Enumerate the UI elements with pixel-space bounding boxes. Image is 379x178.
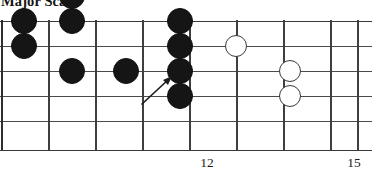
fret-line-nut [1,20,3,150]
fret-number-15: 15 [342,155,366,170]
note-marker-filled [59,8,85,34]
fretboard-grid [0,20,379,152]
note-marker-filled [167,33,193,59]
fret-line-3 [142,20,144,150]
note-marker-filled [11,33,37,59]
fret-number-12: 12 [195,155,219,170]
note-marker-open [225,35,247,57]
fret-line-7 [330,20,332,150]
note-marker-open [279,60,301,82]
fret-line-8 [357,20,359,150]
note-marker-open [279,85,301,107]
note-marker-filled [167,8,193,34]
note-marker-filled [167,83,193,109]
string-line-5 [0,121,372,123]
note-marker-filled [167,58,193,84]
note-marker-filled [113,58,139,84]
string-line-6 [0,150,372,152]
note-marker-filled [11,8,37,34]
fret-line-1 [48,20,50,150]
fret-line-2 [95,20,97,150]
fretboard-diagram: Major Scale [0,0,379,178]
note-marker-filled [59,58,85,84]
